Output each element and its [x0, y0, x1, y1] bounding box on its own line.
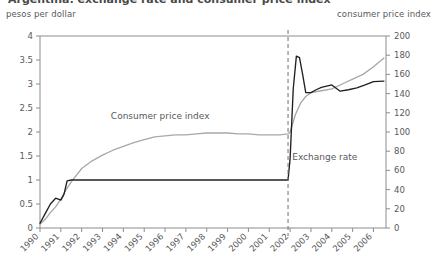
x-tick-label: 1992	[60, 231, 82, 253]
left-tick-label: 1.5	[19, 151, 33, 161]
x-tick-label: 2003	[289, 231, 311, 253]
left-tick-label: 2.5	[19, 103, 33, 113]
right-axis-ticks: 020406080100120140160180200	[386, 31, 410, 233]
series-annotation-label: Consumer price index	[111, 111, 210, 121]
x-axis-ticks: 1990199119921993199419951996199719981999…	[18, 228, 374, 254]
right-tick-label: 200	[394, 31, 410, 41]
right-tick-label: 60	[394, 165, 405, 175]
x-tick-label: 2005	[331, 231, 353, 253]
right-tick-label: 120	[394, 108, 410, 118]
axes-group	[40, 36, 386, 228]
x-tick-label: 1997	[164, 231, 186, 253]
chart-container: Argentina: exchange rate and consumer pr…	[0, 0, 435, 264]
right-tick-label: 20	[394, 204, 405, 214]
right-tick-label: 0	[394, 223, 399, 233]
right-tick-label: 140	[394, 89, 410, 99]
right-tick-label: 100	[394, 127, 410, 137]
x-tick-label: 1994	[101, 231, 123, 253]
x-tick-label: 2001	[247, 231, 269, 253]
right-tick-label: 180	[394, 50, 410, 60]
x-tick-label: 1993	[81, 231, 103, 253]
chart-plot: 00.511.522.533.54 0204060801001201401601…	[0, 0, 435, 264]
x-tick-label: 2000	[226, 231, 248, 253]
series-annotation-label: Exchange rate	[292, 152, 358, 162]
left-tick-label: 2	[28, 127, 33, 137]
x-tick-label: 1996	[143, 231, 165, 253]
x-tick-label: 1999	[206, 231, 228, 253]
x-tick-label: 1990	[18, 231, 40, 253]
left-tick-label: 3	[28, 79, 33, 89]
right-tick-label: 160	[394, 69, 410, 79]
exchange-rate-line	[40, 56, 384, 223]
right-tick-label: 80	[394, 146, 405, 156]
left-axis-ticks: 00.511.522.533.54	[19, 31, 40, 233]
x-tick-label: 1991	[39, 231, 61, 253]
x-tick-label: 2002	[268, 231, 290, 253]
left-tick-label: 1	[28, 175, 33, 185]
right-tick-label: 40	[394, 185, 405, 195]
series-group	[40, 56, 384, 224]
left-tick-label: 0.5	[19, 199, 33, 209]
cpi-line	[40, 58, 384, 224]
left-tick-label: 3.5	[19, 55, 33, 65]
x-tick-label: 2006	[352, 231, 374, 253]
x-tick-label: 2004	[310, 231, 332, 253]
left-tick-label: 4	[28, 31, 33, 41]
x-tick-label: 1995	[122, 231, 144, 253]
x-tick-label: 1998	[185, 231, 207, 253]
